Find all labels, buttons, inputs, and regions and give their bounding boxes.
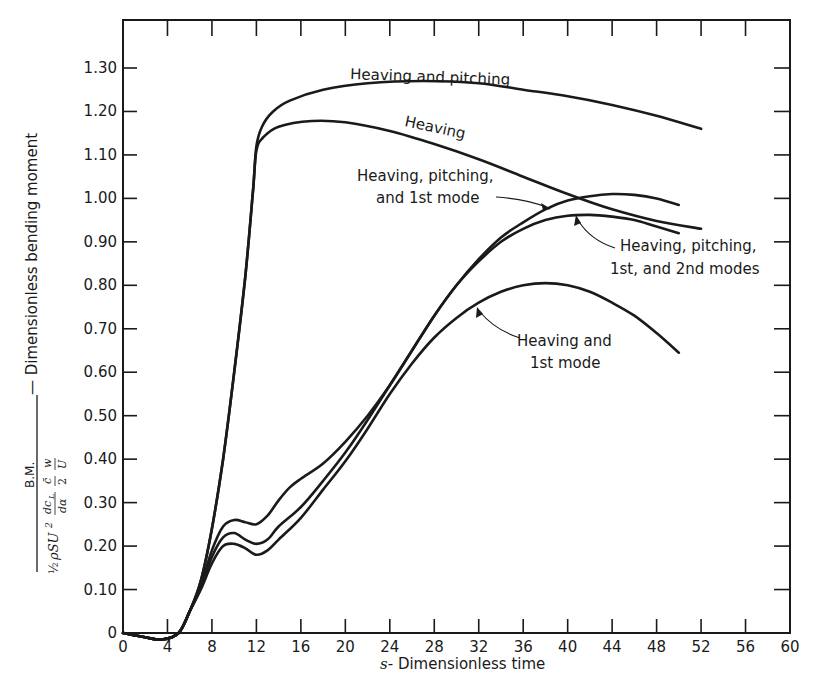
label-hp12-line1: Heaving, pitching, — [620, 237, 757, 255]
y-tick-label: 0.40 — [84, 450, 117, 468]
x-axis-ticks: 04812162024283236404448525660 — [118, 20, 799, 656]
label-hp12-line2: 1st, and 2nd modes — [610, 260, 760, 278]
label-hp1-line2: and 1st mode — [376, 189, 480, 207]
y-axis-denom-sq: 2 — [44, 522, 54, 529]
y-axis-denom-cbar: c̄ — [41, 477, 54, 484]
label-h1-line1: Heaving and — [517, 332, 612, 350]
label-heaving-and-pitching: Heaving and pitching — [350, 65, 511, 89]
leader-hp1 — [496, 197, 546, 207]
label-hp1-line1: Heaving, pitching, — [357, 167, 494, 185]
x-tick-label: 52 — [692, 638, 711, 656]
y-axis-denom-dalpha: dα — [56, 498, 69, 513]
leader-hp12 — [578, 220, 615, 248]
x-tick-label: 28 — [425, 638, 444, 656]
x-tick-label: 32 — [469, 638, 488, 656]
x-tick-label: 12 — [247, 638, 266, 656]
y-tick-label: 0.90 — [84, 233, 117, 251]
x-tick-label: 8 — [207, 638, 217, 656]
arrowhead-h1 — [476, 307, 483, 318]
leader-h1 — [480, 312, 520, 338]
y-axis-denom-rho: ρSU — [46, 531, 61, 561]
y-axis-denom-U: U — [56, 459, 69, 469]
y-axis-denom-dcl: dc — [41, 501, 54, 514]
y-tick-label: 0.30 — [84, 494, 117, 512]
x-tick-label: 56 — [736, 638, 755, 656]
y-tick-label: 0.50 — [84, 407, 117, 425]
x-tick-label: 4 — [163, 638, 173, 656]
x-tick-label: 16 — [291, 638, 310, 656]
y-tick-label: 0 — [107, 624, 117, 642]
x-axis-title: s- Dimensionless time — [380, 655, 545, 673]
arrowhead-hp12 — [574, 215, 581, 226]
y-tick-label: 1.10 — [84, 146, 117, 164]
plot-frame — [123, 20, 790, 633]
y-tick-label: 0.60 — [84, 363, 117, 381]
y-axis-denom-two: 2 — [56, 478, 69, 485]
y-axis-title-numerator: B.M. — [23, 462, 37, 488]
y-axis-denom-half: ½ — [47, 562, 61, 574]
label-h1-line2: 1st mode — [530, 354, 601, 372]
x-tick-label: 24 — [380, 638, 399, 656]
x-tick-label: 60 — [780, 638, 799, 656]
curves — [123, 81, 701, 640]
x-tick-label: 0 — [118, 638, 128, 656]
x-tick-label: 48 — [647, 638, 666, 656]
y-tick-label: 0.10 — [84, 581, 117, 599]
y-axis-ticks: 00.100.200.300.400.500.600.700.800.901.0… — [84, 59, 790, 642]
y-tick-label: 0.20 — [84, 537, 117, 555]
x-tick-label: 20 — [336, 638, 355, 656]
x-tick-label: 36 — [514, 638, 533, 656]
x-tick-label: 40 — [558, 638, 577, 656]
y-axis-title-suffix: — Dimensionless bending moment — [23, 133, 41, 395]
y-axis-denom-w: w — [41, 458, 54, 468]
x-tick-label: 44 — [603, 638, 622, 656]
y-axis-title: — Dimensionless bending moment B.M. ½ ρS… — [23, 133, 69, 574]
y-tick-label: 1.20 — [84, 102, 117, 120]
y-tick-label: 1.00 — [84, 189, 117, 207]
y-tick-label: 1.30 — [84, 59, 117, 77]
y-tick-label: 0.80 — [84, 276, 117, 294]
bending-moment-chart: 04812162024283236404448525660 00.100.200… — [0, 0, 815, 690]
x-axis-title-text: - Dimensionless time — [388, 655, 546, 673]
y-tick-label: 0.70 — [84, 320, 117, 338]
